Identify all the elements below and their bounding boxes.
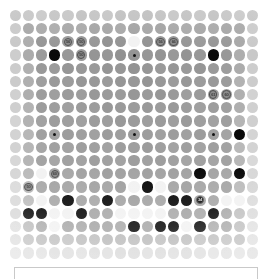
board-intersection[interactable] [49, 115, 60, 126]
board-intersection[interactable] [181, 76, 192, 87]
board-intersection[interactable] [234, 115, 245, 126]
board-intersection[interactable] [10, 129, 21, 140]
board-intersection[interactable] [102, 76, 113, 87]
board-intersection[interactable] [115, 89, 126, 100]
board-intersection[interactable] [23, 195, 34, 206]
board-intersection[interactable] [128, 168, 139, 179]
board-intersection[interactable] [142, 195, 153, 206]
board-intersection[interactable] [10, 89, 21, 100]
board-intersection[interactable] [221, 168, 232, 179]
board-intersection[interactable] [76, 63, 87, 74]
board-intersection[interactable] [247, 129, 258, 140]
board-intersection[interactable] [89, 129, 100, 140]
board-intersection[interactable] [181, 155, 192, 166]
board-intersection[interactable] [49, 10, 60, 21]
board-intersection[interactable] [181, 49, 192, 60]
board-intersection[interactable] [10, 102, 21, 113]
board-intersection[interactable] [247, 63, 258, 74]
board-intersection[interactable] [36, 115, 47, 126]
board-intersection[interactable] [155, 102, 166, 113]
board-intersection[interactable] [89, 36, 100, 47]
board-intersection[interactable] [23, 76, 34, 87]
board-intersection[interactable] [10, 142, 21, 153]
board-intersection[interactable] [234, 234, 245, 245]
board-intersection[interactable] [23, 23, 34, 34]
board-intersection[interactable] [102, 89, 113, 100]
board-intersection[interactable] [89, 23, 100, 34]
board-intersection[interactable] [62, 76, 73, 87]
board-intersection[interactable] [155, 115, 166, 126]
board-intersection[interactable] [168, 234, 179, 245]
board-intersection[interactable] [168, 10, 179, 21]
board-intersection[interactable] [221, 142, 232, 153]
board-intersection[interactable] [247, 10, 258, 21]
board-intersection[interactable] [234, 221, 245, 232]
board-intersection[interactable] [128, 102, 139, 113]
board-intersection[interactable] [76, 195, 87, 206]
board-intersection[interactable] [62, 247, 73, 258]
board-intersection[interactable] [23, 63, 34, 74]
board-intersection[interactable] [10, 234, 21, 245]
board-intersection[interactable] [76, 102, 87, 113]
board-intersection[interactable] [181, 181, 192, 192]
board-intersection[interactable] [62, 234, 73, 245]
board-intersection[interactable] [89, 221, 100, 232]
board-intersection[interactable] [155, 155, 166, 166]
board-intersection[interactable] [155, 168, 166, 179]
board-intersection[interactable] [221, 63, 232, 74]
board-intersection[interactable] [23, 49, 34, 60]
board-intersection[interactable] [194, 142, 205, 153]
black-stone[interactable] [208, 49, 219, 60]
board-intersection[interactable] [221, 247, 232, 258]
board-intersection[interactable] [208, 63, 219, 74]
board-intersection[interactable] [102, 181, 113, 192]
board-intersection[interactable] [10, 115, 21, 126]
board-intersection[interactable] [194, 181, 205, 192]
board-intersection[interactable] [181, 129, 192, 140]
board-intersection[interactable] [115, 10, 126, 21]
board-intersection[interactable] [115, 247, 126, 258]
board-intersection[interactable] [10, 23, 21, 34]
board-intersection[interactable] [62, 181, 73, 192]
board-intersection[interactable] [221, 129, 232, 140]
board-intersection[interactable] [62, 10, 73, 21]
board-intersection[interactable] [49, 102, 60, 113]
board-intersection[interactable] [208, 76, 219, 87]
board-intersection[interactable] [208, 23, 219, 34]
board-intersection[interactable] [115, 36, 126, 47]
board-intersection[interactable] [128, 23, 139, 34]
board-intersection[interactable] [102, 142, 113, 153]
board-intersection[interactable] [247, 208, 258, 219]
board-intersection[interactable] [10, 181, 21, 192]
white-stone[interactable] [142, 208, 153, 219]
board-intersection[interactable] [142, 155, 153, 166]
board-intersection[interactable] [128, 247, 139, 258]
board-intersection[interactable] [36, 49, 47, 60]
board-intersection[interactable] [102, 155, 113, 166]
board-intersection[interactable] [76, 10, 87, 21]
black-stone[interactable] [102, 195, 113, 206]
board-intersection[interactable] [234, 10, 245, 21]
black-stone[interactable] [23, 208, 34, 219]
board-intersection[interactable] [194, 102, 205, 113]
white-stone[interactable] [155, 181, 166, 192]
board-intersection[interactable] [194, 208, 205, 219]
board-intersection[interactable] [128, 10, 139, 21]
board-intersection[interactable] [168, 89, 179, 100]
board-intersection[interactable] [181, 23, 192, 34]
board-intersection[interactable] [181, 102, 192, 113]
board-intersection[interactable] [62, 63, 73, 74]
white-stone[interactable] [234, 195, 245, 206]
board-intersection[interactable] [194, 23, 205, 34]
white-stone[interactable] [36, 195, 47, 206]
board-intersection[interactable] [23, 89, 34, 100]
board-intersection[interactable] [208, 195, 219, 206]
black-stone[interactable] [168, 221, 179, 232]
board-intersection[interactable] [128, 195, 139, 206]
white-stone[interactable] [115, 208, 126, 219]
board-intersection[interactable] [115, 102, 126, 113]
board-intersection[interactable] [89, 102, 100, 113]
board-intersection[interactable] [168, 115, 179, 126]
board-intersection[interactable] [181, 115, 192, 126]
board-intersection[interactable] [181, 10, 192, 21]
